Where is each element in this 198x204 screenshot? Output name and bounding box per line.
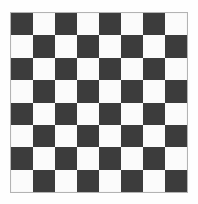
- board-square-d8[interactable]: [77, 13, 99, 35]
- board-square-h1[interactable]: [165, 170, 187, 192]
- board-square-a2[interactable]: [11, 147, 33, 169]
- board-square-d1[interactable]: [77, 170, 99, 192]
- board-square-d4[interactable]: [77, 103, 99, 125]
- board-square-d5[interactable]: [77, 80, 99, 102]
- board-square-g4[interactable]: [143, 103, 165, 125]
- board-square-g1[interactable]: [143, 170, 165, 192]
- board-square-e5[interactable]: [99, 80, 121, 102]
- page-root: [0, 0, 198, 204]
- board-square-e8[interactable]: [99, 13, 121, 35]
- board-square-b4[interactable]: [33, 103, 55, 125]
- board-square-f4[interactable]: [121, 103, 143, 125]
- board-square-c8[interactable]: [55, 13, 77, 35]
- board-square-d6[interactable]: [77, 58, 99, 80]
- board-square-h2[interactable]: [165, 147, 187, 169]
- board-square-c2[interactable]: [55, 147, 77, 169]
- board-square-h3[interactable]: [165, 125, 187, 147]
- board-square-f1[interactable]: [121, 170, 143, 192]
- board-square-e6[interactable]: [99, 58, 121, 80]
- board-square-g5[interactable]: [143, 80, 165, 102]
- board-square-f2[interactable]: [121, 147, 143, 169]
- board-square-b7[interactable]: [33, 35, 55, 57]
- board-square-g2[interactable]: [143, 147, 165, 169]
- board-square-a4[interactable]: [11, 103, 33, 125]
- checkerboard[interactable]: [10, 12, 188, 193]
- board-square-c3[interactable]: [55, 125, 77, 147]
- board-square-c5[interactable]: [55, 80, 77, 102]
- board-square-f3[interactable]: [121, 125, 143, 147]
- board-square-e7[interactable]: [99, 35, 121, 57]
- board-square-h7[interactable]: [165, 35, 187, 57]
- board-square-b8[interactable]: [33, 13, 55, 35]
- board-square-e1[interactable]: [99, 170, 121, 192]
- board-square-g8[interactable]: [143, 13, 165, 35]
- board-square-a1[interactable]: [11, 170, 33, 192]
- board-square-a8[interactable]: [11, 13, 33, 35]
- board-square-h5[interactable]: [165, 80, 187, 102]
- board-square-g7[interactable]: [143, 35, 165, 57]
- board-square-c6[interactable]: [55, 58, 77, 80]
- board-square-f7[interactable]: [121, 35, 143, 57]
- board-square-a7[interactable]: [11, 35, 33, 57]
- board-square-f8[interactable]: [121, 13, 143, 35]
- board-square-a5[interactable]: [11, 80, 33, 102]
- board-square-d2[interactable]: [77, 147, 99, 169]
- board-square-c7[interactable]: [55, 35, 77, 57]
- board-square-b5[interactable]: [33, 80, 55, 102]
- board-square-c4[interactable]: [55, 103, 77, 125]
- board-square-d7[interactable]: [77, 35, 99, 57]
- board-square-a6[interactable]: [11, 58, 33, 80]
- board-square-e2[interactable]: [99, 147, 121, 169]
- board-square-a3[interactable]: [11, 125, 33, 147]
- board-square-b2[interactable]: [33, 147, 55, 169]
- board-square-d3[interactable]: [77, 125, 99, 147]
- board-square-e3[interactable]: [99, 125, 121, 147]
- checkerboard-grid: [11, 13, 187, 192]
- board-square-f6[interactable]: [121, 58, 143, 80]
- board-square-h6[interactable]: [165, 58, 187, 80]
- board-square-b3[interactable]: [33, 125, 55, 147]
- board-square-g6[interactable]: [143, 58, 165, 80]
- board-square-e4[interactable]: [99, 103, 121, 125]
- board-square-b6[interactable]: [33, 58, 55, 80]
- board-square-g3[interactable]: [143, 125, 165, 147]
- board-square-c1[interactable]: [55, 170, 77, 192]
- board-square-h8[interactable]: [165, 13, 187, 35]
- board-square-f5[interactable]: [121, 80, 143, 102]
- board-square-b1[interactable]: [33, 170, 55, 192]
- board-square-h4[interactable]: [165, 103, 187, 125]
